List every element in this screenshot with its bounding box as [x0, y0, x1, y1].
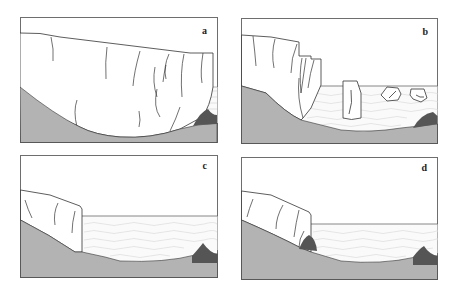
panel-label-d: d [421, 162, 427, 173]
panel-d-drawing [241, 157, 438, 280]
panel-label-b: b [422, 26, 428, 37]
panel-c: c [20, 155, 218, 278]
panel-label-a: a [202, 25, 207, 36]
panel-label-c: c [203, 160, 207, 171]
panel-a: a [20, 17, 218, 143]
panel-c-drawing [20, 155, 218, 278]
panel-d: d [241, 157, 438, 280]
panel-a-drawing [20, 17, 218, 143]
panel-b-drawing [241, 18, 438, 144]
panel-b: b [241, 18, 438, 144]
